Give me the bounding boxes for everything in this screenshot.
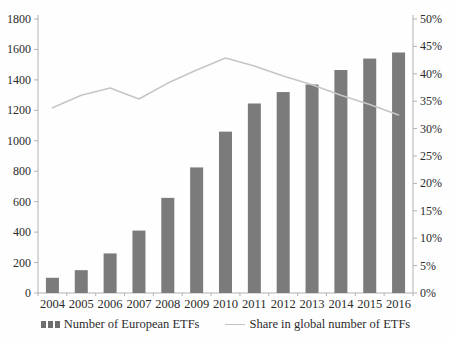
y-axis-right-tick-label: 15% [420,204,442,218]
x-axis-category-label: 2009 [184,297,209,311]
y-axis-left-tick-label: 1800 [7,12,31,26]
x-axis-category-label: 2013 [300,297,325,311]
x-axis-category-label: 2007 [126,297,151,311]
bar-2006 [104,253,117,293]
y-axis-right-tick-label: 0% [420,286,436,300]
bar-2009 [190,167,203,293]
x-axis-category-label: 2016 [386,297,411,311]
x-axis-category-label: 2005 [69,297,94,311]
bar-2007 [132,231,145,293]
legend-label-bars: Number of European ETFs [64,317,200,332]
y-axis-right-tick-label: 20% [420,176,442,190]
y-axis-right-tick-label: 35% [420,94,442,108]
y-axis-left-tick-label: 1200 [7,103,31,117]
x-axis-category-label: 2012 [271,297,296,311]
bar-2012 [277,92,290,293]
y-axis-left-tick-label: 600 [13,195,31,209]
y-axis-right-tick-label: 5% [420,259,436,273]
x-axis-category-label: 2008 [155,297,180,311]
legend-label-line: Share in global number of ETFs [249,317,410,332]
y-axis-right-tick-label: 25% [420,149,442,163]
y-axis-left-tick-label: 1000 [7,134,31,148]
y-axis-left-tick-label: 0 [25,286,31,300]
bar-2013 [306,84,319,293]
bar-2005 [75,270,88,293]
chart-canvas: 0200400600800100012001400160018000%5%10%… [0,0,451,341]
legend-item-line: Share in global number of ETFs [225,317,410,332]
y-axis-left-tick-label: 200 [13,256,31,270]
y-axis-right-tick-label: 40% [420,67,442,81]
y-axis-right-tick-label: 30% [420,122,442,136]
bar-2010 [219,132,232,293]
y-axis-left-tick-label: 800 [13,164,31,178]
bar-2004 [46,278,59,293]
y-axis-left-tick-label: 1400 [7,73,31,87]
bar-2008 [161,198,174,293]
x-axis-category-label: 2004 [40,297,66,311]
bar-series-swatch-icon [41,321,60,328]
bar-2016 [392,52,405,293]
x-axis-category-label: 2011 [242,297,267,311]
legend-item-bars: Number of European ETFs [41,317,200,332]
x-axis-category-label: 2006 [98,297,123,311]
line-series-swatch-icon [225,324,245,325]
chart-legend: Number of European ETFs Share in global … [0,317,451,332]
y-axis-right-tick-label: 10% [420,231,442,245]
plot-area: 0200400600800100012001400160018000%5%10%… [0,0,451,341]
y-axis-left-tick-label: 400 [13,225,31,239]
bar-2011 [248,103,261,293]
x-axis-category-label: 2010 [213,297,238,311]
bar-2014 [334,70,347,293]
x-axis-category-label: 2014 [328,297,354,311]
y-axis-left-tick-label: 1600 [7,42,31,56]
x-axis-category-label: 2015 [357,297,382,311]
bar-2015 [363,59,376,293]
y-axis-right-tick-label: 50% [420,12,442,26]
y-axis-right-tick-label: 45% [420,39,442,53]
